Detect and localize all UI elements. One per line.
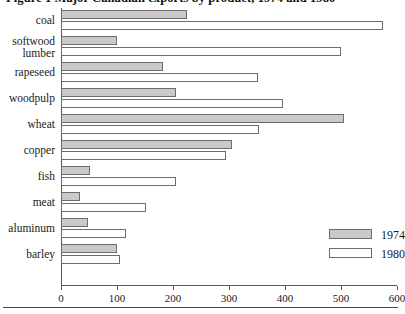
category-label: rapeseed [0,66,55,78]
legend-label-1980: 1980 [381,247,405,262]
bar-1974 [61,244,117,253]
bar-row: rapeseed [61,61,397,87]
category-label: wheat [0,118,55,130]
x-tick-label-500: 500 [333,292,350,304]
bar-1980 [61,203,146,212]
bar-row: wheat [61,113,397,139]
x-tick-100 [117,286,118,290]
bar-row: copper [61,139,397,165]
category-label: meat [0,196,55,208]
bar-1974 [61,166,90,175]
legend-label-1974: 1974 [381,228,405,243]
x-tick-label-600: 600 [389,292,405,304]
x-tick-400 [285,286,286,290]
x-tick-300 [229,286,230,290]
category-label: softwood lumber [0,35,55,59]
x-tick-label-400: 400 [277,292,294,304]
bar-1974 [61,88,176,97]
bar-1980 [61,177,176,186]
plot-area: 0100200300400500600 coalsoftwood lumberr… [61,8,397,285]
x-tick-label-300: 300 [221,292,238,304]
bar-1974 [61,62,163,71]
legend-swatch-1974-icon [329,229,372,239]
figure-title: Figure 1 Major Canadian exports by produ… [6,0,335,6]
bar-1980 [61,73,258,82]
bar-1974 [61,36,117,45]
x-tick-label-100: 100 [109,292,126,304]
legend-swatch-1980-icon [329,248,372,258]
category-label: fish [0,170,55,182]
bar-1974 [61,10,187,19]
footer-rule [3,307,398,308]
x-tick-label-0: 0 [58,292,64,304]
bar-1974 [61,218,88,227]
category-label: aluminum [0,222,55,234]
bar-1974 [61,114,344,123]
bar-1980 [61,21,383,30]
category-label: barley [0,248,55,260]
x-tick-500 [341,286,342,290]
x-tick-200 [173,286,174,290]
x-tick-600 [397,286,398,290]
bar-row: softwood lumber [61,35,397,61]
bar-row: coal [61,9,397,35]
category-label: coal [0,14,55,26]
bar-1980 [61,151,226,160]
bar-row: woodpulp [61,87,397,113]
bar-row: meat [61,191,397,217]
bar-1974 [61,140,232,149]
category-label: copper [0,144,55,156]
bar-row: fish [61,165,397,191]
bar-1980 [61,99,283,108]
x-tick-label-200: 200 [165,292,182,304]
bar-1980 [61,125,259,134]
x-tick-0 [61,286,62,290]
bar-1980 [61,255,120,264]
bar-1980 [61,47,341,56]
bar-1980 [61,229,126,238]
bar-1974 [61,192,80,201]
category-label: woodpulp [0,92,55,104]
